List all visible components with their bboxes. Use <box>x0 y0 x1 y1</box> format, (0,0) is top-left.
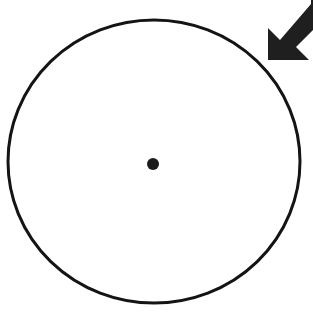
center-point-dot <box>147 158 159 170</box>
figure-drawing <box>0 0 313 312</box>
background-rect <box>0 0 313 312</box>
figure-canvas: A large thin-stroked circle occupying mo… <box>0 0 313 312</box>
